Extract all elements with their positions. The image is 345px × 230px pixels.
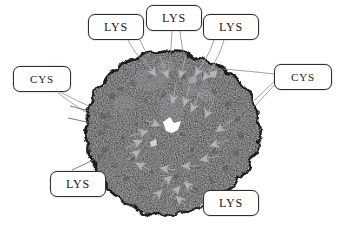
callout-label: LYS [104, 21, 128, 33]
callout-label: LYS [219, 21, 243, 33]
callout-label: LYS [66, 178, 90, 190]
callout-cys-right[interactable]: CYS [274, 64, 332, 90]
callout-cys-left[interactable]: CYS [13, 66, 71, 92]
callout-lys-bottom-left[interactable]: LYS [50, 171, 106, 197]
callout-lys-top-right[interactable]: LYS [203, 14, 259, 40]
callout-label: LYS [162, 12, 186, 24]
callout-lys-top-center[interactable]: LYS [146, 5, 202, 31]
callout-lys-bottom-right[interactable]: LYS [203, 190, 259, 216]
callout-lys-top-left[interactable]: LYS [88, 14, 144, 40]
molecular-figure-canvas: LYS LYS LYS CYS CYS LYS LYS [0, 0, 345, 230]
callout-label: CYS [291, 71, 315, 82]
callout-label: CYS [30, 73, 54, 84]
callout-label: LYS [219, 197, 243, 209]
